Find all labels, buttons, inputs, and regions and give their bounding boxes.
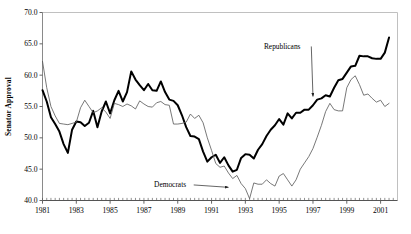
y-tick-label: 60.0: [24, 71, 37, 80]
democrats-annotation-text: Democrats: [154, 180, 186, 189]
x-tick-label: 1985: [103, 206, 118, 215]
senator-approval-line-chart: 70.065.060.055.050.045.040.0 19811983198…: [0, 0, 411, 234]
y-tick-label: 40.0: [24, 196, 37, 205]
x-tick-label: 1987: [136, 206, 151, 215]
y-tick-label: 65.0: [24, 39, 37, 48]
y-tick-label: 50.0: [24, 133, 37, 142]
x-tick-label: 1999: [339, 206, 354, 215]
x-tick-label: 1983: [69, 206, 84, 215]
x-tick-label: 1993: [238, 206, 253, 215]
y-tick-label: 55.0: [24, 102, 37, 111]
x-tick-label: 1981: [35, 206, 50, 215]
y-tick-label: 70.0: [24, 8, 37, 17]
x-tick-label: 1997: [305, 206, 320, 215]
chart-background: [0, 0, 411, 234]
y-axis-label-text: Senator Approval: [4, 77, 13, 136]
y-axis-label: Senator Approval: [4, 77, 13, 136]
x-tick-label: 1995: [272, 206, 287, 215]
y-tick-label: 45.0: [24, 165, 37, 174]
republicans-annotation-text: Republicans: [264, 42, 301, 51]
x-tick-label: 2001: [373, 206, 388, 215]
x-tick-label: 1989: [170, 206, 185, 215]
chart-figure: 70.065.060.055.050.045.040.0 19811983198…: [0, 0, 411, 234]
x-tick-label: 1991: [204, 206, 219, 215]
